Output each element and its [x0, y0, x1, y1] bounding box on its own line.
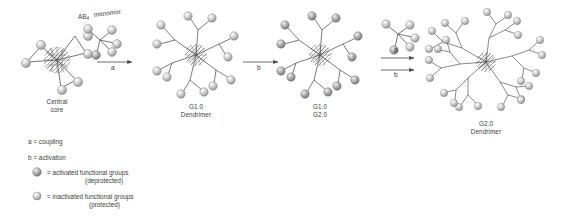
legend-reaction-a: a = coupling [28, 137, 63, 146]
legend-activated-subtext: (deprotected) [85, 177, 123, 184]
legend-sphere-inactivated [33, 192, 41, 200]
g2-label-line1: G2.0 [479, 120, 493, 128]
g1a-branches [283, 18, 356, 92]
arrow-2-label: b [257, 64, 261, 72]
legend-inactivated-text: = inactivated functional groups [47, 192, 134, 201]
ab4-monomer-formula: AB4 [78, 13, 89, 21]
g2-label-line2: Dendrimer [471, 128, 501, 136]
core-label-line2: core [51, 106, 64, 114]
legend-inactivated-subtext: (protected) [89, 201, 120, 208]
ab4-monomer-molecule-2 [382, 20, 419, 54]
scheme-drawing [0, 0, 563, 217]
arrow-4-label: b [394, 71, 398, 79]
core-label-line1: Central [47, 98, 68, 106]
legend-activated-text: = activated functional groups [47, 168, 129, 177]
legend-reaction-b: b = activation [28, 153, 66, 162]
dendrimer-synthesis-figure: AB4 monomer a b a b Central core G1.0 De… [0, 0, 563, 217]
g1-activated-label-line1: G1.0 [313, 103, 327, 111]
arrow-1-label: a [111, 64, 115, 72]
g1-activated-structure [277, 12, 362, 98]
g1-activated-label-line2: G2.0 [313, 111, 327, 119]
g1-protected-structure [153, 12, 238, 98]
core-structure [21, 31, 92, 94]
legend-sphere-activated [33, 168, 42, 177]
g1-protected-label-line1: G1.0 [189, 103, 203, 111]
g1-protected-label-line2: Dendrimer [181, 111, 211, 119]
arrow-3-label: a [394, 46, 398, 54]
g1p-branches [159, 18, 232, 92]
g2-structure [425, 8, 545, 110]
